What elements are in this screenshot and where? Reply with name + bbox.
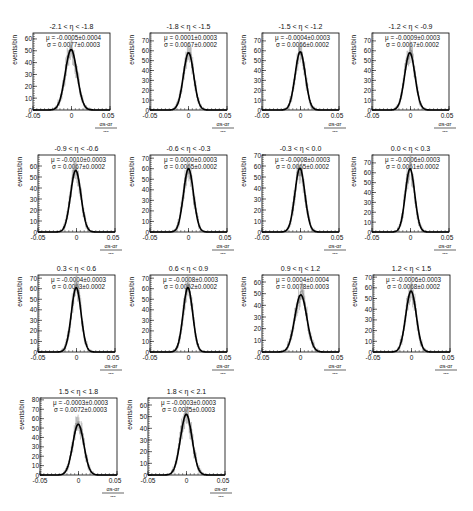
y-tick-label: 50 — [30, 174, 38, 181]
y-tick-label: 20 — [254, 87, 262, 94]
y-tick-label: 30 — [254, 314, 262, 321]
y-tick-label: 30 — [32, 443, 40, 450]
histogram-panel: 0.0 < η < 0.3010203040506070-0.0500.05ev… — [339, 132, 457, 254]
histogram-panel: 1.5 < η < 1.801020304050607080-0.0500.05… — [7, 375, 125, 497]
y-tick-label: 40 — [364, 67, 372, 74]
x-tick-label: -0.05 — [26, 112, 41, 119]
y-tick-label: 50 — [142, 296, 150, 303]
x-tick-label: 0.05 — [217, 477, 230, 484]
x-tick-label: 0 — [75, 234, 79, 241]
panel-title: 0.9 < η < 1.2 — [281, 265, 320, 273]
y-tick-label: 30 — [30, 317, 38, 324]
y-tick-label: 60 — [140, 402, 148, 409]
y-tick-label: 60 — [365, 284, 373, 291]
x-axis-label-numerator: αs-αr — [215, 486, 228, 492]
y-tick-label: 10 — [25, 95, 33, 102]
fit-sigma-text: σ = 0.0065±0.0002 — [276, 163, 330, 170]
y-tick-label: 60 — [254, 163, 262, 170]
y-tick-label: 60 — [142, 285, 150, 292]
y-tick-label: 50 — [140, 413, 148, 420]
x-tick-label: -0.05 — [141, 477, 156, 484]
x-axis-label-denominator: αs — [218, 494, 224, 497]
y-tick-label: 50 — [364, 179, 372, 186]
panel-title: 0.0 < η < 0.3 — [391, 145, 430, 153]
fit-sigma-text: σ = 0.0077±0.0003 — [47, 41, 101, 48]
y-tick-label: 60 — [254, 47, 262, 54]
x-axis-label-numerator: αs-αr — [100, 121, 113, 127]
y-tick-label: 30 — [254, 196, 262, 203]
y-tick-label: 50 — [364, 57, 372, 64]
x-axis-label-denominator: αs — [108, 371, 114, 374]
histogram-panel: 0.6 < η < 0.9010203040506070-0.0500.05ev… — [117, 252, 235, 374]
histogram-panel: 1.2 < η < 1.5010203040506070-0.0500.05ev… — [340, 252, 458, 374]
x-tick-label: 0 — [299, 234, 303, 241]
y-tick-label: 40 — [142, 186, 150, 193]
x-tick-label: 0 — [410, 354, 414, 361]
y-tick-label: 70 — [142, 155, 150, 162]
y-tick-label: 20 — [142, 327, 150, 334]
x-tick-label: -0.05 — [255, 234, 270, 241]
fit-sigma-text: σ = 0.0062±0.0002 — [164, 283, 218, 290]
y-tick-label: 10 — [142, 338, 150, 345]
y-axis-label: events/bin — [351, 277, 358, 307]
y-tick-label: 50 — [254, 174, 262, 181]
y-tick-label: 60 — [254, 279, 262, 286]
fit-sigma-text: σ = 0.0067±0.0002 — [164, 41, 218, 48]
x-tick-label: 0.05 — [102, 112, 115, 119]
y-tick-label: 20 — [254, 207, 262, 214]
y-axis-label: events/bin — [240, 35, 247, 65]
panel-title: -0.9 < η < -0.6 — [55, 145, 99, 153]
panel-title: -0.6 < η < -0.3 — [167, 145, 211, 153]
histogram-panel: 0.3 < η < 0.6010203040506070-0.0500.05ev… — [5, 252, 123, 374]
x-axis-label-numerator: αs-αr — [439, 243, 452, 249]
x-tick-label: 0 — [299, 354, 303, 361]
x-axis-label-numerator: αs-αr — [440, 363, 453, 369]
y-tick-label: 50 — [254, 290, 262, 297]
panel-title: -1.2 < η < -0.9 — [389, 23, 433, 31]
y-tick-label: 10 — [365, 338, 373, 345]
y-tick-label: 70 — [364, 159, 372, 166]
x-tick-label: 0 — [187, 112, 191, 119]
y-tick-label: 60 — [30, 163, 38, 170]
y-axis-label: events/bin — [16, 277, 23, 307]
y-tick-label: 30 — [142, 317, 150, 324]
y-tick-label: 10 — [30, 338, 38, 345]
y-tick-label: 40 — [365, 306, 373, 313]
y-tick-label: 70 — [30, 275, 38, 282]
histogram-panel: -1.8 < η < -1.5010203040506070-0.0500.05… — [117, 10, 235, 132]
fit-sigma-text: σ = 0.0067±0.0002 — [52, 163, 106, 170]
x-axis-label-numerator: αs-αr — [439, 121, 452, 127]
y-axis-label: events/bin — [11, 35, 18, 65]
y-tick-label: 50 — [142, 57, 150, 64]
y-axis-label: events/bin — [240, 277, 247, 307]
y-tick-label: 10 — [364, 219, 372, 226]
panel-title: -0.3 < η < 0.0 — [280, 145, 322, 153]
x-tick-label: 0 — [409, 112, 413, 119]
y-tick-label: 50 — [142, 176, 150, 183]
fit-sigma-text: σ = 0.0072±0.0003 — [54, 406, 108, 413]
histogram-panel: -0.9 < η < -0.60102030405060-0.0500.05ev… — [5, 132, 123, 254]
x-tick-label: 0 — [299, 112, 303, 119]
x-tick-label: 0 — [187, 354, 191, 361]
y-tick-label: 50 — [32, 425, 40, 432]
panel-title: 1.5 < η < 1.8 — [59, 388, 98, 396]
y-tick-label: 20 — [32, 453, 40, 460]
y-tick-label: 20 — [364, 209, 372, 216]
histogram-panel: 0.9 < η < 1.20102030405060-0.0500.05even… — [229, 252, 347, 374]
y-axis-label: events/bin — [128, 277, 135, 307]
x-tick-label: -0.05 — [143, 112, 158, 119]
y-tick-label: 10 — [32, 462, 40, 469]
y-tick-label: 30 — [30, 196, 38, 203]
y-tick-label: 10 — [140, 460, 148, 467]
panel-title: 1.8 < η < 2.1 — [167, 388, 206, 396]
y-tick-label: 20 — [30, 207, 38, 214]
y-tick-label: 40 — [254, 185, 262, 192]
y-axis-label: events/bin — [128, 157, 135, 187]
y-tick-label: 20 — [365, 327, 373, 334]
y-axis-label: events/bin — [18, 400, 25, 430]
y-tick-label: 60 — [364, 47, 372, 54]
y-tick-label: 50 — [30, 296, 38, 303]
panel-title: 0.6 < η < 0.9 — [169, 265, 208, 273]
y-tick-label: 40 — [142, 67, 150, 74]
y-tick-label: 10 — [142, 97, 150, 104]
